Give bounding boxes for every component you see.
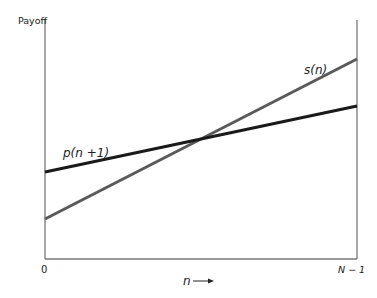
payoff-chart: Payoff 0 N − 1 n p(n +1) s(n) [0,0,377,298]
series-s-label: s(n) [304,63,327,77]
y-axis-label: Payoff [18,15,48,26]
series-p-line [45,106,357,172]
x-axis-label: n [183,274,191,288]
tick-zero: 0 [41,264,47,275]
series-p-label: p(n +1) [62,146,109,160]
tick-n-minus-1: N − 1 [338,264,365,275]
x-arrow-icon [193,279,214,284]
